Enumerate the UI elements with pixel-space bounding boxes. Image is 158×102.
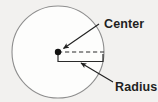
diagram-canvas: Center Radius <box>0 0 158 102</box>
center-label: Center <box>104 17 144 31</box>
center-point <box>55 49 61 55</box>
radius-label: Radius <box>115 80 157 94</box>
circle-diagram: Center Radius <box>0 0 158 102</box>
